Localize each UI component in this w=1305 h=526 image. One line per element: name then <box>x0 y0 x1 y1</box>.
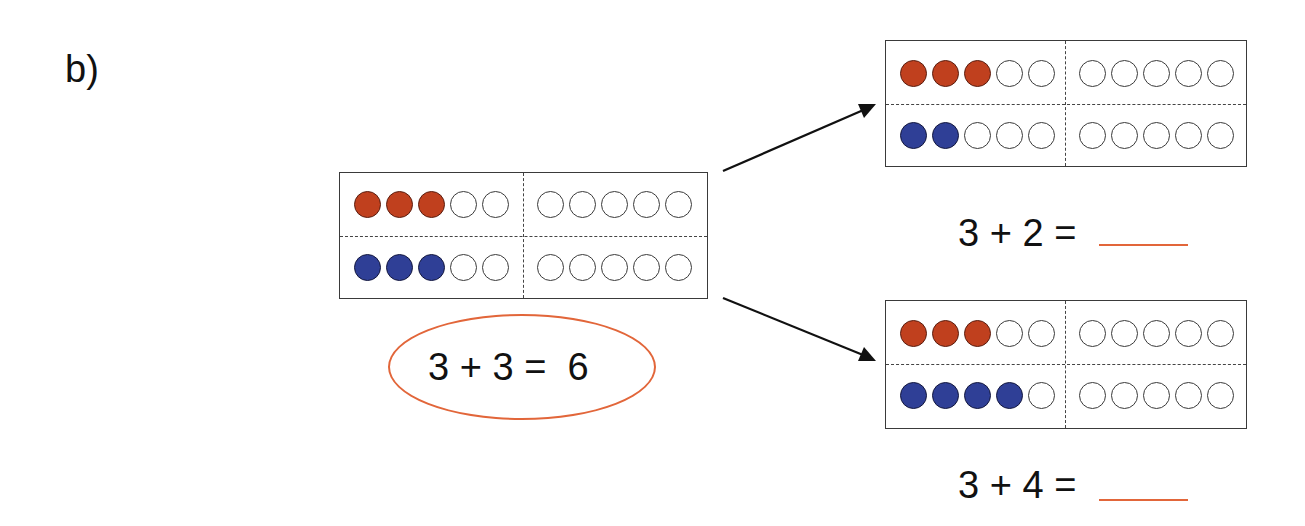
arrow-icon <box>723 104 876 171</box>
arrows-layer <box>0 0 1305 526</box>
arrow-icon <box>723 298 876 361</box>
